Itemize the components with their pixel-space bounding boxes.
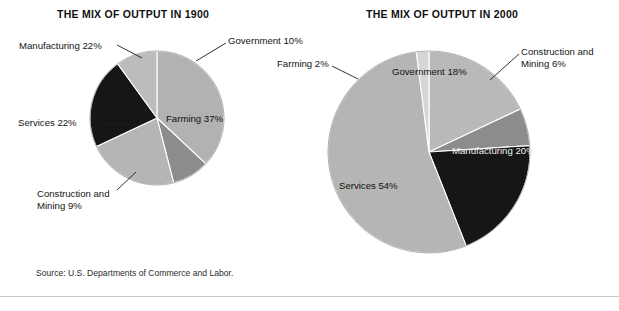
pie-label-1900-construction: Construction andMining 9% <box>37 188 110 211</box>
pie-label-1900-services: Services 22% <box>18 117 77 129</box>
chart-title-2000: THE MIX OF OUTPUT IN 2000 <box>366 8 518 20</box>
pie-label-2000-construction: Construction andMining 6% <box>521 46 594 69</box>
pie-label-2000-government: Government 18% <box>392 66 467 78</box>
pie-label-2000-services: Services 54% <box>339 180 398 192</box>
pie-label-1900-government: Government 10% <box>228 35 303 47</box>
pie-label-2000-manufacturing: Manufacturing 20% <box>452 145 535 157</box>
pie-label-1900-farming: Farming 37% <box>166 113 223 125</box>
figure-canvas: THE MIX OF OUTPUT IN 1900 THE MIX OF OUT… <box>0 0 619 311</box>
pie-label-1900-manufacturing: Manufacturing 22% <box>19 40 102 52</box>
cropped-header-text <box>26 0 586 4</box>
source-note: Source: U.S. Departments of Commerce and… <box>36 268 233 278</box>
footer-divider <box>0 296 619 297</box>
pie-label-2000-farming: Farming 2% <box>277 58 329 70</box>
chart-title-1900: THE MIX OF OUTPUT IN 1900 <box>57 8 209 20</box>
